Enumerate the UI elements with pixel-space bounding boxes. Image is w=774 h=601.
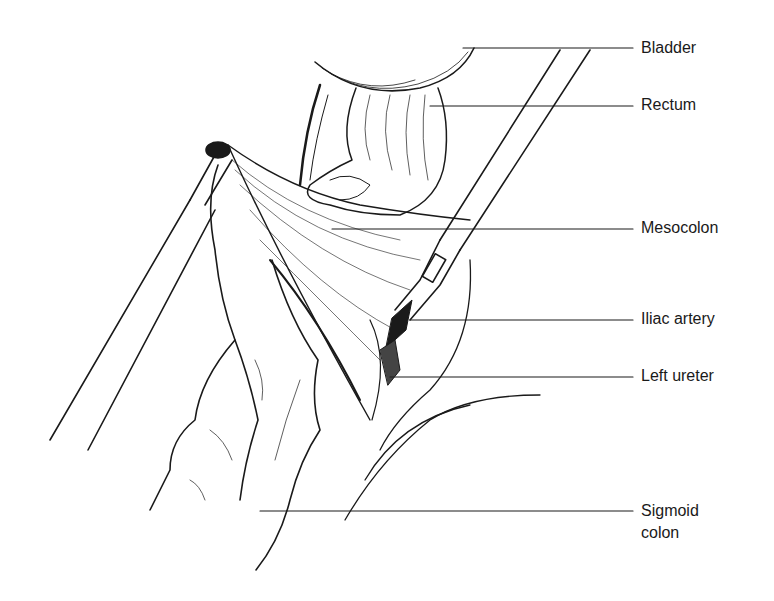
right-instrument-drawing [395, 50, 590, 320]
label-bladder: Bladder [641, 38, 696, 57]
label-sigmoid-colon-line1: Sigmoid [641, 501, 699, 520]
label-sigmoid-colon-line2: colon [641, 523, 679, 542]
label-iliac-artery: Iliac artery [641, 309, 715, 328]
pelvic-wall-drawing [345, 260, 540, 520]
mesocolon-drawing [228, 145, 470, 420]
label-mesocolon: Mesocolon [641, 218, 718, 237]
leader-lines [260, 48, 633, 511]
vessels-drawing [370, 300, 412, 420]
label-rectum: Rectum [641, 95, 696, 114]
label-left-ureter: Left ureter [641, 366, 714, 385]
bladder-drawing [315, 48, 474, 91]
left-forceps-drawing [50, 142, 232, 450]
rectum-drawing [300, 85, 446, 215]
